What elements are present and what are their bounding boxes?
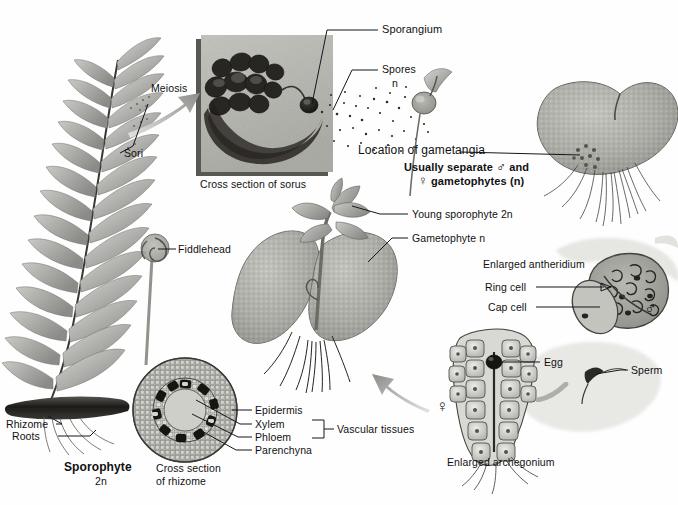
female-symbol-inline: ♀: [418, 173, 428, 188]
label-sporangium: Sporangium: [382, 23, 442, 36]
label-spores: Spores: [382, 63, 416, 75]
label-ring-cell: Ring cell: [485, 281, 526, 293]
sorus-cross-section-inset-photo: [196, 35, 333, 176]
male-symbol: ♂: [644, 300, 657, 317]
label-cross-section-of-rhizome-line1: Cross section: [156, 462, 221, 474]
young-sporophyte-on-gametophyte: [232, 178, 397, 393]
label-enlarged-antheridium: Enlarged antheridium: [483, 258, 585, 270]
label-rhizome: Rhizome: [6, 418, 48, 430]
label-epidermis: Epidermis: [255, 404, 303, 416]
gametophytes-text: gametophytes (n): [431, 175, 524, 187]
enlarged-archegonium: [449, 329, 661, 494]
label-sperm: Sperm: [631, 364, 662, 376]
label-enlarged-archegonium: Enlarged archegonium: [447, 456, 555, 468]
label-spores-ploidy: n: [392, 77, 398, 89]
label-xylem: Xylem: [255, 418, 285, 430]
label-usually-separate: Usually separate ♂ and: [404, 160, 529, 174]
fern-life-cycle-diagram: Meiosis Sori Sporangium Spores n Cross s…: [0, 0, 678, 505]
label-egg: Egg: [544, 356, 563, 368]
usually-separate-and: and: [509, 161, 529, 173]
label-sori: Sori: [124, 147, 143, 159]
label-gametophytes-n: ♀ gametophytes (n): [418, 174, 524, 188]
fern-frond-sporophyte: [2, 38, 164, 418]
enlarged-antheridium: [556, 236, 678, 342]
label-meiosis: Meiosis: [151, 82, 187, 94]
male-symbol-inline: ♂: [496, 159, 506, 174]
label-cross-section-of-rhizome-line2: of rhizome: [156, 475, 206, 487]
label-location-of-gametangia: Location of gametangia: [358, 143, 485, 157]
label-roots: Roots: [12, 430, 40, 442]
label-cap-cell: Cap cell: [488, 301, 527, 313]
label-cross-section-of-sorus: Cross section of sorus: [200, 178, 306, 190]
label-gametophyte: Gametophyte n: [412, 232, 485, 244]
label-parenchyna: Parenchyna: [255, 444, 312, 456]
label-vascular-tissues: Vascular tissues: [337, 423, 414, 435]
label-sporophyte-ploidy: 2n: [95, 475, 107, 487]
label-sporophyte: Sporophyte: [64, 460, 132, 474]
fiddlehead-crozier: [141, 234, 169, 365]
fertilization-gray-arrow: [372, 374, 430, 413]
rhizome-cross-section-circle: [133, 358, 237, 462]
label-young-sporophyte: Young sporophyte 2n: [412, 208, 513, 220]
female-symbol: ♀: [436, 398, 449, 415]
heart-shaped-gametophyte: [537, 82, 678, 226]
label-fiddlehead: Fiddlehead: [178, 243, 231, 255]
label-phloem: Phloem: [255, 431, 291, 443]
usually-separate-text: Usually separate: [404, 161, 493, 173]
